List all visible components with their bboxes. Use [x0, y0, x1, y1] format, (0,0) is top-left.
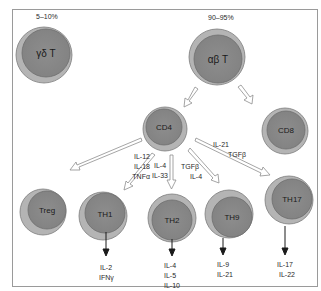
gamma-delta-label: γδ T: [36, 48, 55, 59]
cd4-label: CD4: [156, 123, 172, 132]
th9-label: TH9: [224, 213, 239, 222]
th2-outputs: IL-4 IL-5 IL-10: [164, 261, 180, 291]
cd8-label: CD8: [278, 126, 294, 135]
alpha-beta-label: αβ T: [208, 54, 228, 65]
th2-inducers: IL-4 IL-33: [152, 161, 168, 181]
th2-label: TH2: [164, 216, 179, 225]
th9-outputs: IL-9 IL-21: [217, 260, 233, 280]
diagram-canvas: [0, 0, 321, 291]
th17-inducers: IL-21 TGFβ: [213, 140, 246, 160]
t-cell-diagram: 5–10% 90–95% γδ T αβ T CD4 CD8 Treg TH1 …: [0, 0, 321, 291]
treg-label: Treg: [39, 206, 55, 215]
alpha-beta-percentage: 90–95%: [208, 13, 234, 22]
th1-label: TH1: [97, 210, 112, 219]
gamma-delta-percentage: 5–10%: [36, 12, 58, 21]
th1-outputs: IL-2 IFNγ: [99, 263, 114, 283]
th9-inducers: TGFβ IL-4: [181, 162, 202, 182]
th1-inducers: IL-12 IL-18 TNFα: [128, 152, 150, 182]
th17-label: TH17: [282, 195, 302, 204]
th17-outputs: IL-17 IL-22: [277, 260, 295, 280]
